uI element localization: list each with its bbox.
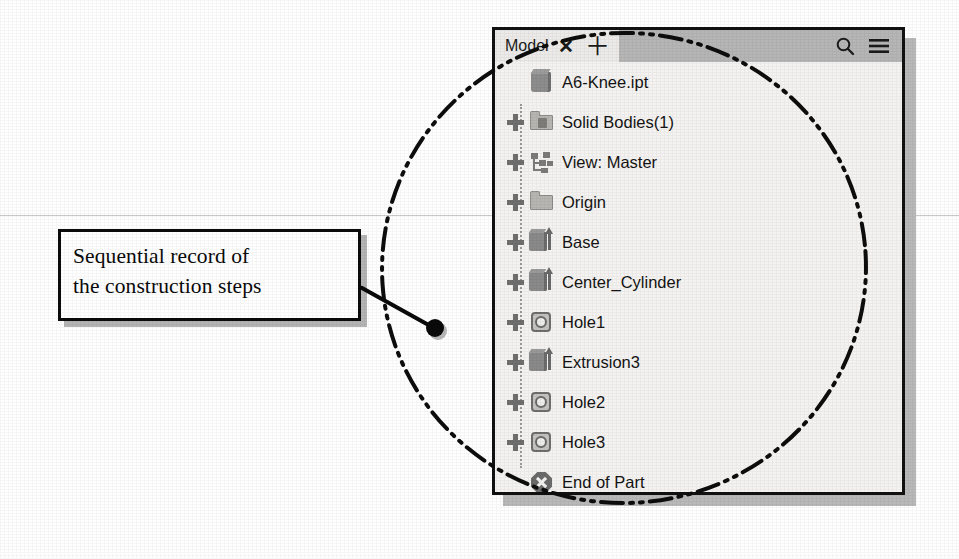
tree-item-label: Hole2 <box>562 393 605 412</box>
tree-item-label: End of Part <box>562 473 645 492</box>
panel-header: Model ✕ ＋ <box>495 30 902 62</box>
tab-model[interactable]: Model <box>505 37 549 55</box>
expander-plus-icon[interactable] <box>503 350 527 374</box>
hole-icon <box>529 429 555 455</box>
tree-item-label: Extrusion3 <box>562 353 640 372</box>
tree-item-label: Origin <box>562 193 606 212</box>
hamburger-menu-icon[interactable] <box>868 37 890 55</box>
tree-item-extrusion3[interactable]: Extrusion3 <box>495 342 902 382</box>
extrusion-icon <box>529 269 555 295</box>
expander-plus-icon[interactable] <box>503 310 527 334</box>
close-icon[interactable]: ✕ <box>558 37 574 56</box>
expander-plus-icon[interactable] <box>503 430 527 454</box>
end-of-part-icon <box>529 469 555 495</box>
folder-icon <box>529 189 555 215</box>
tree-item-label: Solid Bodies(1) <box>562 113 674 132</box>
callout-line-1: Sequential record of <box>73 241 355 271</box>
expander-plus-icon[interactable] <box>503 190 527 214</box>
extrusion-icon <box>529 229 555 255</box>
search-icon[interactable] <box>835 36 855 56</box>
hole-icon <box>529 389 555 415</box>
panel-header-actions <box>835 36 902 56</box>
folder-solid-bodies-icon <box>529 109 555 135</box>
expander-plus-icon[interactable] <box>503 150 527 174</box>
tree-item-hole3[interactable]: Hole3 <box>495 422 902 462</box>
model-tree: A6-Knee.ipt Solid Bodies(1) <box>495 62 902 492</box>
tree-item-label: Center_Cylinder <box>562 273 681 292</box>
tree-item-hole1[interactable]: Hole1 <box>495 302 902 342</box>
tree-item-part-document[interactable]: A6-Knee.ipt <box>495 62 902 102</box>
tree-item-label: Hole3 <box>562 433 605 452</box>
tree-item-base[interactable]: Base <box>495 222 902 262</box>
tree-item-label: A6-Knee.ipt <box>562 73 648 92</box>
tree-item-label: Hole1 <box>562 313 605 332</box>
tree-item-view-master[interactable]: View: Master <box>495 142 902 182</box>
model-browser-panel: Model ✕ ＋ <box>492 27 905 495</box>
expander-plus-icon[interactable] <box>503 230 527 254</box>
hole-icon <box>529 309 555 335</box>
callout-text: Sequential record of the construction st… <box>73 241 355 301</box>
tree-item-hole2[interactable]: Hole2 <box>495 382 902 422</box>
callout-line-2: the construction steps <box>73 271 355 301</box>
extrusion-icon <box>529 349 555 375</box>
expander-plus-icon[interactable] <box>503 390 527 414</box>
expander-plus-icon[interactable] <box>503 110 527 134</box>
add-tab-icon[interactable]: ＋ <box>585 34 610 59</box>
tree-item-label: Base <box>562 233 600 252</box>
part-document-icon <box>529 69 555 95</box>
callout-box: Sequential record of the construction st… <box>58 229 361 321</box>
tree-item-origin[interactable]: Origin <box>495 182 902 222</box>
tree-item-label: View: Master <box>562 153 657 172</box>
tree-item-end-of-part[interactable]: End of Part <box>495 462 902 495</box>
tree-item-solid-bodies[interactable]: Solid Bodies(1) <box>495 102 902 142</box>
expander-plus-icon[interactable] <box>503 270 527 294</box>
view-hierarchy-icon <box>529 149 555 175</box>
tree-item-center-cylinder[interactable]: Center_Cylinder <box>495 262 902 302</box>
panel-tab-group: Model ✕ ＋ <box>495 34 610 59</box>
